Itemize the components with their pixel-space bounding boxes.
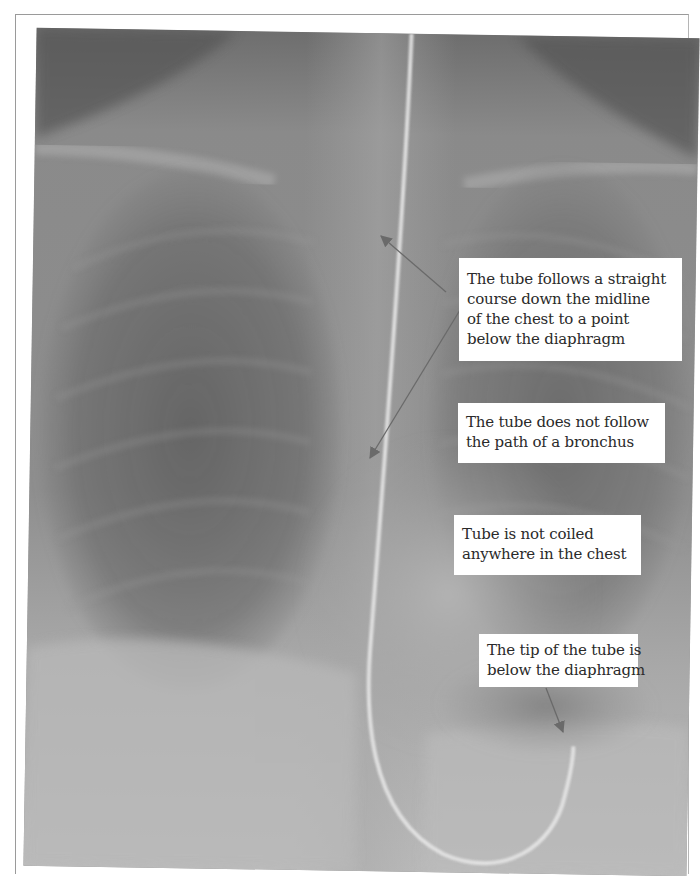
callout-line: below the diaphragm bbox=[487, 660, 630, 680]
callout-line: course down the midline bbox=[467, 289, 674, 309]
callout-midline-course: The tube follows a straight course down … bbox=[459, 258, 682, 361]
callout-line: The tip of the tube is bbox=[487, 640, 630, 660]
callout-not-bronchus: The tube does not follow the path of a b… bbox=[458, 403, 665, 463]
callout-line: of the chest to a point bbox=[467, 309, 674, 329]
callout-line: The tube follows a straight bbox=[467, 269, 674, 289]
callout-not-coiled: Tube is not coiled anywhere in the chest bbox=[454, 515, 641, 575]
callout-tip-below-diaphragm: The tip of the tube is below the diaphra… bbox=[479, 634, 638, 687]
callout-line: The tube does not follow bbox=[466, 412, 657, 432]
callout-line: Tube is not coiled bbox=[462, 524, 633, 544]
callout-line: anywhere in the chest bbox=[462, 544, 633, 564]
callout-line: the path of a bronchus bbox=[466, 432, 657, 452]
callout-line: below the diaphragm bbox=[467, 329, 674, 349]
